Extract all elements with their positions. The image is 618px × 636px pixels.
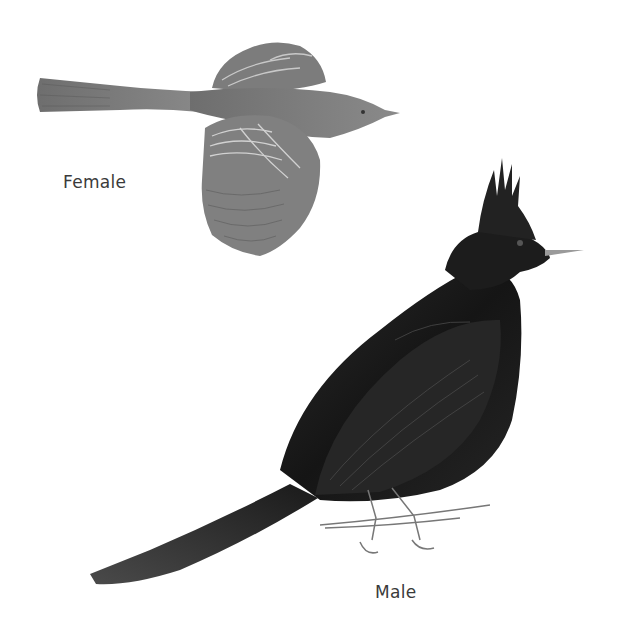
male-bird [90,158,584,584]
female-label: Female [63,172,126,192]
female-bird [37,42,400,256]
bird-illustration [0,0,618,636]
male-label: Male [375,582,416,602]
